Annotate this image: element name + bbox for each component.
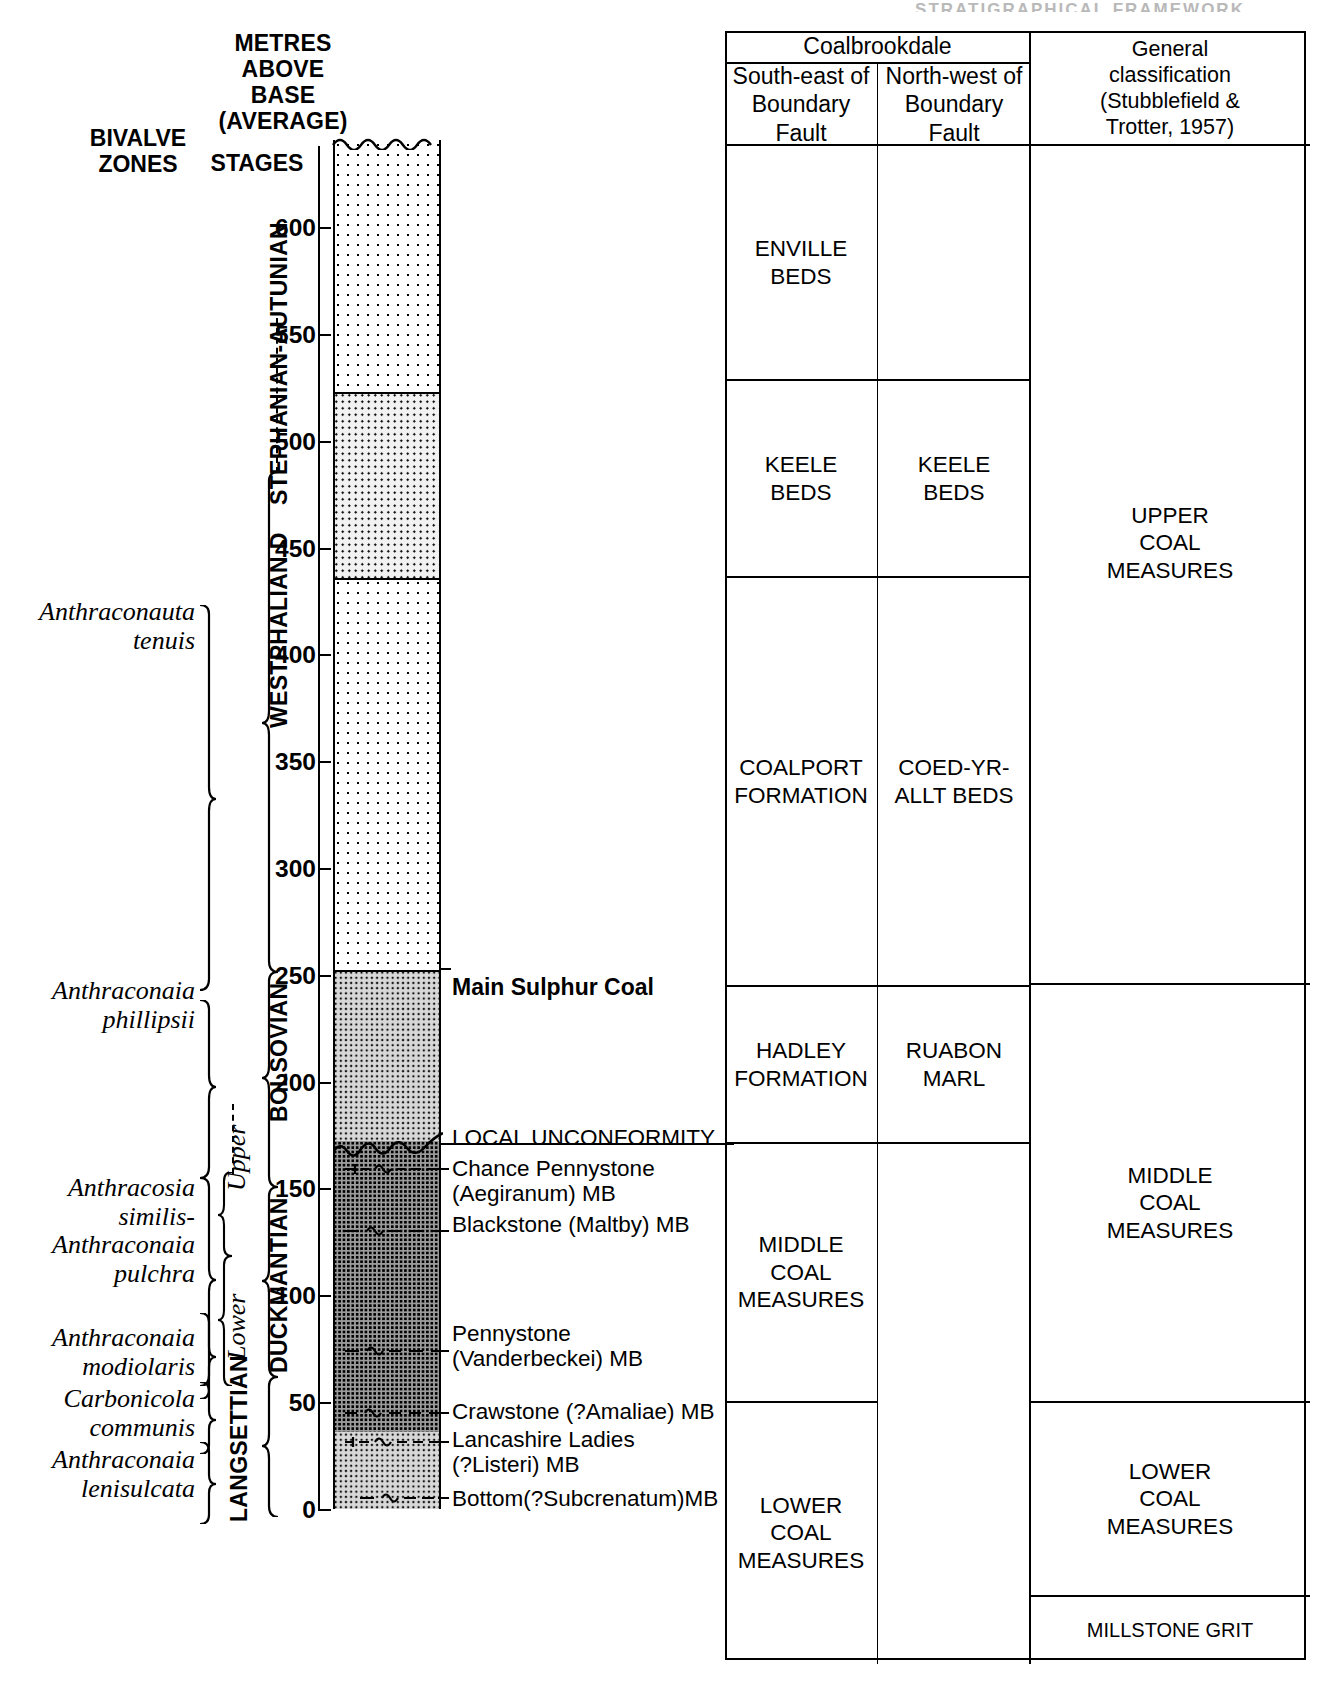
table-cell-lower-coal-measures-general: LOWER COAL MEASURES [1029, 1401, 1310, 1597]
stage-bracket-langsettian [262, 1377, 282, 1517]
zone-label-anthracosia-similis-anthraconaia-pulchra: Anthracosia similis- Anthraconaia pulchr… [10, 1174, 195, 1288]
wavy-top-surface [331, 130, 445, 150]
axis-tick-550 [318, 334, 331, 336]
axis-tick-300 [318, 868, 331, 870]
main-sulphur-coal-tick [441, 968, 451, 970]
table-cell-upper-coal-measures-general: UPPER COAL MEASURES [1029, 144, 1310, 985]
axis-tick-200 [318, 1082, 331, 1084]
marine-band-marker-subcrenatum [360, 1490, 449, 1504]
zone-bracket-anthraconaia-phillipsii [196, 1000, 216, 1178]
annotation-bottom-subcrenatum: Bottom(?Subcrenatum)MB [452, 1487, 718, 1512]
table-cell-hadley-formation: HADLEY FORMATION [725, 985, 878, 1144]
metres-above-base-header: METRES ABOVE BASE (AVERAGE) [218, 30, 348, 134]
stage-label-westphalian-d: WESTPHALIAN D [266, 532, 293, 728]
axis-tick-50 [318, 1402, 331, 1404]
zone-label-carbonicola-communis: Carbonicola communis [10, 1385, 195, 1442]
substage-label-upper: Upper [222, 1125, 252, 1191]
annotation-pennystone: Pennystone (Vanderbeckei) MB [452, 1322, 643, 1372]
table-cell-millstone-grit: MILLSTONE GRIT [1029, 1595, 1310, 1664]
stage-label-duckmantian: DUCKMANTIAN [266, 1197, 293, 1373]
marine-band-marker-listeri [345, 1434, 449, 1448]
lithology-band-keele-beds [333, 392, 441, 578]
stage-label-stephanian-autunian: STEPHANIAN-AUTUNIAN [266, 222, 293, 505]
lithology-column [333, 140, 441, 1509]
marine-band-marker-amaliae [345, 1405, 449, 1419]
axis-tick-0 [318, 1509, 331, 1511]
table-cell-coalport-formation: COALPORT FORMATION [725, 576, 878, 987]
metre-scale-axis [318, 146, 320, 1509]
bivalve-zones-header: BIVALVE ZONES [78, 125, 198, 177]
annotation-chance-pennystone: Chance Pennystone (Aegiranum) MB [452, 1157, 655, 1207]
table-cell-enville-beds: ENVILLE BEDS [725, 144, 878, 381]
table-cell-middle-coal-measures-general: MIDDLE COAL MEASURES [1029, 983, 1310, 1403]
axis-tick-250 [318, 975, 331, 977]
zone-label-anthraconaia-phillipsii: Anthraconaia phillipsii [10, 977, 195, 1034]
annotation-crawstone: Crawstone (?Amaliae) MB [452, 1400, 715, 1425]
axis-tick-450 [318, 548, 331, 550]
table-cell-keele-beds-nw: KEELE BEDS [877, 379, 1031, 578]
lithology-contact-coalport [333, 578, 441, 580]
table-cell-ruabon-marl: RUABON MARL [877, 985, 1031, 1144]
substage-label-lower: Lower [222, 1294, 252, 1360]
lithology-band-hadley-formation [333, 970, 441, 1141]
lithology-band-coalport-formation [333, 578, 441, 970]
table-cell-keele-beds-se: KEELE BEDS [725, 379, 878, 578]
zone-bracket-anthraconaia-lenisulcata [196, 1442, 216, 1524]
lithology-band-middle-coal-measures [333, 1141, 441, 1432]
table-cell-lower-coal-measures-se: LOWER COAL MEASURES [725, 1401, 878, 1664]
table-col-header-south-east: South-east of Boundary Fault [725, 63, 878, 146]
annotation-blackstone: Blackstone (Maltby) MB [452, 1213, 690, 1238]
zone-label-anthraconauta-tenuis: Anthraconauta tenuis [10, 598, 195, 655]
local-unconformity-surface [333, 1132, 443, 1158]
axis-tick-600 [318, 227, 331, 229]
annotation-local-unconformity: LOCAL UNCONFORMITY [452, 1126, 715, 1151]
axis-tick-400 [318, 654, 331, 656]
marine-band-marker-aegiranum [345, 1161, 449, 1175]
lithology-contact-keele-base-top [333, 392, 441, 394]
table-cell-coed-yr-allt-beds: COED-YR- ALLT BEDS [877, 576, 1031, 987]
axis-tick-150 [318, 1188, 331, 1190]
stage-label-bolsovian: BOLSOVIAN [266, 983, 293, 1122]
table-group-header-coalbrookdale: Coalbrookdale [725, 31, 1031, 63]
table-col-header-north-west: North-west of Boundary Fault [877, 63, 1031, 146]
zone-label-anthraconaia-lenisulcata: Anthraconaia lenisulcata [10, 1446, 195, 1503]
marine-band-marker-maltby [345, 1223, 449, 1237]
axis-tick-100 [318, 1295, 331, 1297]
zone-bracket-anthraconauta-tenuis [196, 605, 216, 1000]
marine-band-marker-vanderbeckei [345, 1343, 449, 1357]
annotation-lancashire-ladies: Lancashire Ladies (?Listeri) MB [452, 1428, 635, 1478]
lithology-band-enville-sandstone [333, 140, 441, 392]
table-col-header-general-classification: General classification (Stubblefield & T… [1029, 31, 1310, 146]
lithology-contact-main-sulphur-coal [333, 970, 441, 972]
running-header: STRATIGRAPHICAL FRAMEWORK [860, 0, 1300, 12]
stages-header: STAGES [202, 150, 312, 177]
axis-tick-350 [318, 761, 331, 763]
table-cell-nw-enville-blank [877, 144, 1031, 381]
zone-label-anthraconaia-modiolaris: Anthraconaia modiolaris [10, 1324, 195, 1381]
axis-tick-500 [318, 441, 331, 443]
correlation-table: Coalbrookdale South-east of Boundary Fau… [725, 31, 1306, 1660]
annotation-main-sulphur-coal: Main Sulphur Coal [452, 975, 654, 1000]
table-cell-middle-coal-measures-se: MIDDLE COAL MEASURES [725, 1142, 878, 1403]
table-cell-nw-lower-blank [877, 1142, 1031, 1664]
